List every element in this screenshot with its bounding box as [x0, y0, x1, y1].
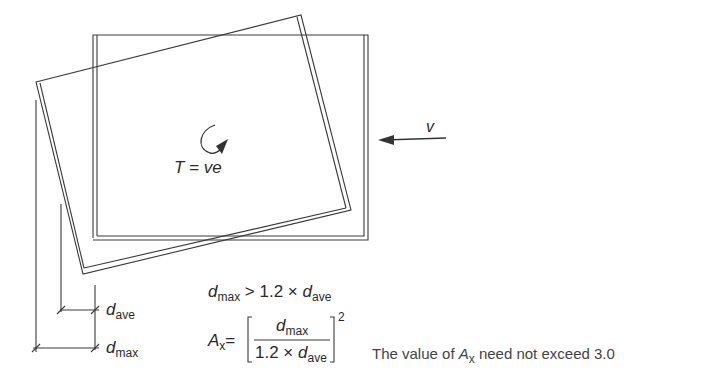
fraction-brackets [0, 0, 718, 384]
note-suffix: need not exceed 3.0 [475, 345, 615, 362]
fraction-numerator: dmax [276, 316, 308, 338]
limit-note: The value of Ax need not exceed 3.0 [372, 345, 615, 366]
note-symbol: A [459, 345, 469, 362]
numerator-sub: max [285, 324, 308, 338]
denominator-sub: ave [307, 351, 326, 365]
fraction-denominator: 1.2 × dave [255, 343, 327, 365]
exponent: 2 [338, 310, 345, 324]
note-prefix: The value of [372, 345, 459, 362]
denominator-prefix: 1.2 × [255, 343, 298, 362]
